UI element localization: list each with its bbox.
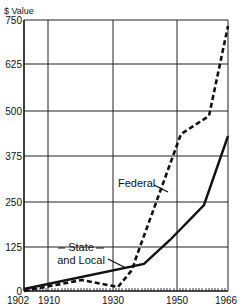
svg-text:500: 500 bbox=[5, 106, 22, 117]
y-tick-labels: 750 625 500 375 250 125 0 bbox=[5, 15, 22, 297]
svg-text:1902: 1902 bbox=[7, 295, 30, 306]
svg-text:1950: 1950 bbox=[166, 295, 189, 306]
grid bbox=[24, 20, 228, 291]
state-label-line1: State bbox=[68, 241, 94, 253]
federal-line bbox=[24, 26, 228, 291]
svg-text:125: 125 bbox=[5, 242, 22, 253]
state-pointer bbox=[108, 259, 126, 268]
svg-text:375: 375 bbox=[5, 151, 22, 162]
svg-text:1910: 1910 bbox=[38, 295, 61, 306]
svg-text:1966: 1966 bbox=[215, 295, 238, 306]
svg-text:250: 250 bbox=[5, 197, 22, 208]
line-chart: $ Value 750 625 500 375 250 125 0 1902 1… bbox=[0, 0, 239, 306]
state-label-line2: and Local bbox=[57, 254, 105, 266]
svg-text:625: 625 bbox=[5, 59, 22, 70]
svg-text:1930: 1930 bbox=[102, 295, 125, 306]
x-tick-labels: 1902 1910 1930 1950 1966 bbox=[7, 295, 238, 306]
federal-label: Federal bbox=[118, 177, 155, 189]
state-local-line bbox=[24, 136, 228, 289]
svg-text:750: 750 bbox=[5, 15, 22, 26]
